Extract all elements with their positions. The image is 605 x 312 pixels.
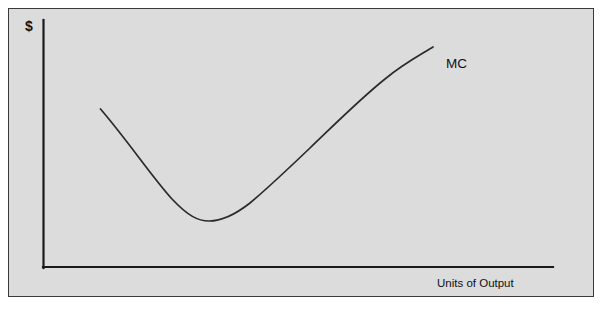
marginal-cost-curve	[101, 47, 434, 221]
mc-curve-label: MC	[446, 57, 467, 71]
chart-figure: $ MC Units of Output	[0, 0, 605, 312]
y-axis-label: $	[25, 19, 33, 33]
x-axis-label: Units of Output	[437, 278, 514, 290]
chart-plot-area	[0, 0, 605, 312]
